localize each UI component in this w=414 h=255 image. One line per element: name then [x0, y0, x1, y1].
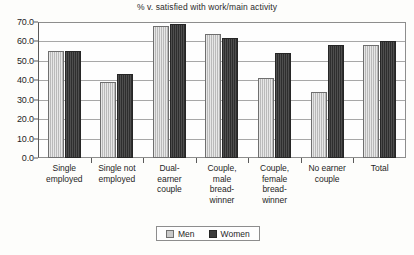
x-category-label: Couple,femalebread-winner [248, 163, 301, 205]
x-category-label: Couple,malebread-winner [196, 163, 249, 205]
x-category-label: No earnercouple [301, 163, 354, 184]
legend-swatch-icon [166, 230, 174, 238]
legend-label: Women [221, 229, 250, 239]
gridline [39, 119, 405, 120]
gridline [39, 139, 405, 140]
legend: MenWomen [156, 226, 260, 241]
x-category-label: Single notemployed [91, 163, 144, 184]
y-tick-label: 70.0 [0, 17, 34, 27]
chart-title: % v. satisfied with work/main activity [0, 2, 414, 12]
gridline [39, 100, 405, 101]
y-tick-label: 0.0 [0, 153, 34, 163]
y-tick-label: 40.0 [0, 75, 34, 85]
y-axis: 0.010.020.030.040.050.060.070.0 [0, 22, 34, 158]
legend-swatch-icon [209, 230, 217, 238]
y-tick-label: 20.0 [0, 114, 34, 124]
gridline [39, 41, 405, 42]
x-category-label: Singleemployed [38, 163, 91, 184]
x-axis: SingleemployedSingle notemployedDual-ear… [38, 163, 406, 221]
gridline [39, 61, 405, 62]
gridline [39, 80, 405, 81]
y-tick-label: 50.0 [0, 56, 34, 66]
legend-item-women[interactable]: Women [209, 229, 250, 239]
legend-item-men[interactable]: Men [166, 229, 195, 239]
legend-label: Men [178, 229, 195, 239]
bar-chart: % v. satisfied with work/main activity 0… [0, 0, 414, 255]
y-tick-label: 30.0 [0, 95, 34, 105]
x-category-label: Total [353, 163, 406, 174]
plot-area [38, 22, 406, 158]
x-category-label: Dual-earnercouple [143, 163, 196, 195]
y-tick-label: 60.0 [0, 36, 34, 46]
y-tick-label: 10.0 [0, 134, 34, 144]
